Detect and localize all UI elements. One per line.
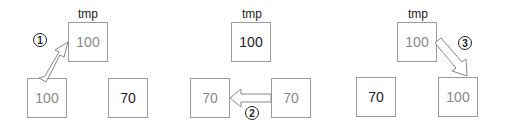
step-number-badge: 1 bbox=[33, 33, 47, 47]
step-number-badge: 3 bbox=[458, 36, 472, 50]
step-number-badge: 2 bbox=[245, 106, 259, 120]
arrow-down-right-icon bbox=[338, 0, 507, 125]
panel-step-2: tmp 100 70 70 2 bbox=[169, 0, 338, 125]
panel-step-1: tmp 100 100 70 1 bbox=[0, 0, 169, 125]
panel-step-3: tmp 100 70 100 3 bbox=[338, 0, 507, 125]
arrow-up-right-icon bbox=[0, 0, 169, 125]
